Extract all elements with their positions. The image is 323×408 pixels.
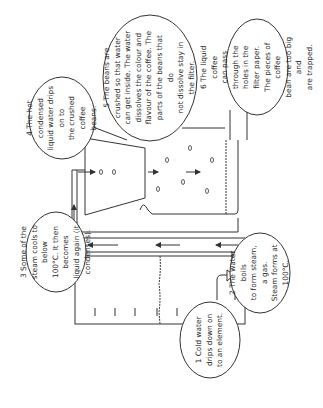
callout-4-text: 4 The hot condensed liquid water drips o…	[25, 85, 99, 151]
callout-3: 3 Some of the steam cools to below 100°C…	[26, 212, 86, 292]
callout-6-text: 6 The liquid coffee can pass through the…	[199, 36, 316, 98]
callout-3-text: 3 Some of the steam cools to below 100°C…	[19, 222, 93, 282]
callout-5: 5 The beans are crushed so that water ca…	[103, 15, 197, 141]
callout-6: 6 The liquid coffee can pass through the…	[226, 19, 288, 115]
coffee-droplets	[100, 146, 214, 194]
callout-2: 2 The water boils to form steam, a gas. …	[230, 233, 290, 313]
callout-2-text: 2 The water boils to form steam, a gas. …	[228, 243, 292, 303]
flow-arrows	[74, 172, 238, 300]
callout-1-text: 1 Cold water drips down on to an element…	[194, 310, 226, 370]
callout-1: 1 Cold water drips down on to an element…	[180, 302, 240, 378]
callout-5-text: 5 The beans are crushed so that water ca…	[102, 31, 197, 125]
callout-4: 4 The hot condensed liquid water drips o…	[29, 77, 95, 159]
